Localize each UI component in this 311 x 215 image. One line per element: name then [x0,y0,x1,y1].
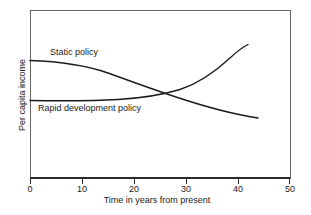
series-label-rapid-development-policy: Rapid development policy [37,103,142,113]
x-tick-label-20: 20 [122,184,146,195]
x-tick-label-50: 50 [278,184,302,195]
y-axis-title: Per capita income [17,35,27,155]
x-axis-title: Time in years from present [62,195,252,205]
x-tick-label-30: 30 [174,184,198,195]
x-tick-label-0: 0 [18,184,42,195]
series-label-static-policy: Static policy [49,47,99,57]
chart-figure: 0 10 20 30 40 50 Time in years from pres… [0,0,311,215]
x-tick-label-10: 10 [70,184,94,195]
x-tick-label-40: 40 [226,184,250,195]
